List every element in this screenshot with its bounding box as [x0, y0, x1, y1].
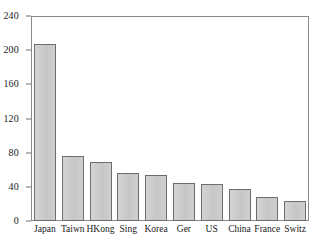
x-tick-label: Taiwn [61, 223, 85, 235]
bar-ger [173, 183, 195, 221]
x-tick-label: Ger [177, 223, 191, 235]
y-tick-label: 40 [9, 182, 19, 192]
bar-chart: 04080120160200240 JapanTaiwnHKongSingKor… [0, 0, 321, 248]
y-tick-label: 200 [3, 45, 19, 55]
x-axis: JapanTaiwnHKongSingKoreaGerUSChinaFrance… [31, 223, 309, 241]
y-tick-label: 160 [3, 79, 19, 89]
y-tick-label: 120 [3, 114, 19, 124]
bars-layer [31, 16, 309, 221]
bar-france [256, 197, 278, 221]
x-tick-label: HKong [87, 223, 115, 235]
x-tick-label: Korea [144, 223, 167, 235]
bar-switz [284, 201, 306, 221]
bar-us [201, 184, 223, 221]
y-tick-label: 80 [9, 148, 19, 158]
x-tick-label: Japan [34, 223, 56, 235]
y-tick-label: 0 [14, 216, 19, 226]
y-axis: 04080120160200240 [0, 0, 31, 248]
bar-china [229, 189, 251, 221]
x-tick-label: Switz [284, 223, 306, 235]
x-tick-label: France [254, 223, 280, 235]
x-tick-label: Sing [120, 223, 137, 235]
bar-japan [34, 44, 56, 221]
bar-sing [117, 173, 139, 221]
bar-hkong [90, 162, 112, 221]
y-tick-label: 240 [3, 11, 19, 21]
bar-taiwn [62, 156, 84, 221]
x-tick-label: China [228, 223, 251, 235]
x-tick-label: US [206, 223, 218, 235]
bar-korea [145, 175, 167, 221]
